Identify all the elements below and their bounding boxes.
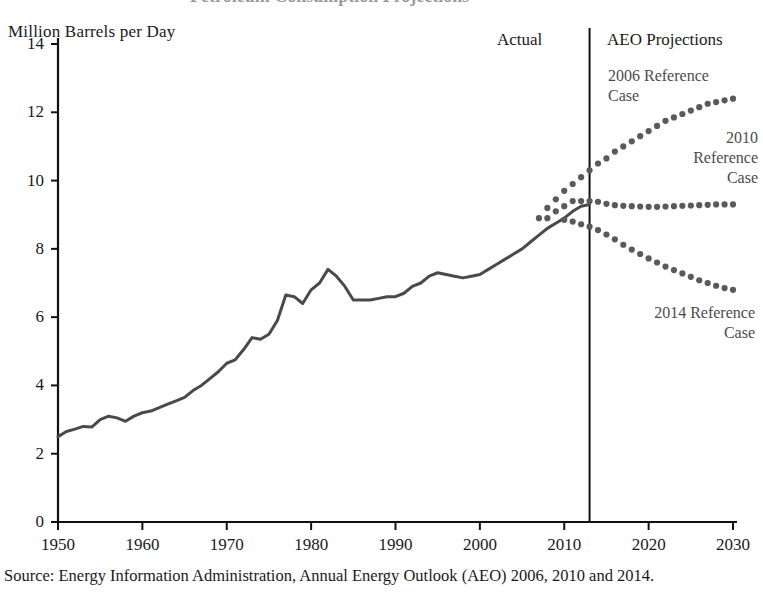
x-tick-label: 1990 [366, 536, 426, 553]
series-label-aeo2014-line2: Case [600, 323, 755, 343]
y-tick-label: 10 [8, 172, 44, 189]
series-dot [705, 202, 711, 208]
series-dot [629, 246, 635, 252]
series-dot [679, 270, 685, 276]
series-label-aeo2014-line1: 2014 Reference [600, 303, 755, 323]
series-dot [561, 217, 567, 223]
series-dot [646, 255, 652, 261]
series-dot [662, 203, 668, 209]
series-dot [578, 198, 584, 204]
series-dot [586, 198, 592, 204]
x-tick-label: 1970 [197, 536, 257, 553]
y-tick-label: 6 [8, 308, 44, 325]
series-dot [553, 208, 559, 214]
series-dot [688, 202, 694, 208]
series-dot [696, 202, 702, 208]
series-label-aeo2006-line2: Case [608, 86, 709, 106]
series-dot [544, 205, 550, 211]
y-tick-label: 2 [8, 445, 44, 462]
y-tick-label: 4 [8, 376, 44, 393]
series-dot [705, 280, 711, 286]
series-dot [536, 215, 542, 221]
series-dot [603, 231, 609, 237]
series-dot [620, 242, 626, 248]
series-dot [570, 181, 576, 187]
series-dot [561, 188, 567, 194]
series-dot [721, 201, 727, 207]
series-dot [662, 264, 668, 270]
series-dot [561, 203, 567, 209]
series-label-aeo2010-line2: Reference [603, 148, 758, 168]
series-dot [730, 287, 736, 293]
series-dot [688, 107, 694, 113]
series-label-aeo2006: 2006 Reference Case [608, 66, 709, 106]
series-dot [721, 97, 727, 103]
series-dot [679, 203, 685, 209]
series-dot [671, 114, 677, 120]
series-dot [612, 202, 618, 208]
series-dot [637, 251, 643, 257]
series-dot [730, 201, 736, 207]
series-dot [646, 204, 652, 210]
region-label-projections: AEO Projections [607, 30, 723, 50]
series-dot [679, 111, 685, 117]
x-tick-label: 1960 [112, 536, 172, 553]
series-dot [595, 160, 601, 166]
series-line-actual [58, 204, 590, 436]
series-dot [713, 283, 719, 289]
series-dot [671, 203, 677, 209]
x-tick-label: 2000 [450, 536, 510, 553]
series-dot [578, 221, 584, 227]
series-dot [688, 274, 694, 280]
series-dot [553, 196, 559, 202]
series-dot [696, 277, 702, 283]
series-dot [612, 236, 618, 242]
x-tick-label: 1950 [28, 536, 88, 553]
series-dot [713, 201, 719, 207]
oil-consumption-figure: Petroleum Consumption Projections Millio… [0, 0, 763, 593]
y-tick-label: 0 [8, 513, 44, 530]
series-dot [654, 204, 660, 210]
series-dot [570, 218, 576, 224]
y-tick-label: 8 [8, 240, 44, 257]
series-dot [544, 215, 550, 221]
x-tick-label: 1980 [281, 536, 341, 553]
series-dot [595, 199, 601, 205]
series-dot [671, 267, 677, 273]
series-label-aeo2014: 2014 Reference Case [600, 303, 755, 343]
series-dot [654, 259, 660, 265]
region-label-actual: Actual [497, 30, 542, 50]
series-label-aeo2010-line1: 2010 [603, 128, 758, 148]
series-dot [603, 201, 609, 207]
series-dot [629, 203, 635, 209]
series-dot [713, 99, 719, 105]
x-tick-label: 2020 [619, 536, 679, 553]
series-dot [620, 203, 626, 209]
series-dot [570, 198, 576, 204]
x-tick-label: 2030 [703, 536, 763, 553]
source-note: Source: Energy Information Administratio… [4, 566, 654, 586]
series-dot [730, 96, 736, 102]
series-dot [721, 285, 727, 291]
series-dot [662, 118, 668, 124]
series-label-aeo2010: 2010 Reference Case [603, 128, 758, 188]
y-tick-label: 14 [8, 35, 44, 52]
series-dot [586, 224, 592, 230]
x-tick-label: 2010 [534, 536, 594, 553]
series-dot [595, 227, 601, 233]
y-tick-label: 12 [8, 103, 44, 120]
series-dot [586, 167, 592, 173]
series-label-aeo2006-line1: 2006 Reference [608, 66, 709, 86]
series-label-aeo2010-line3: Case [603, 168, 758, 188]
series-dot [637, 203, 643, 209]
series-dot [578, 174, 584, 180]
